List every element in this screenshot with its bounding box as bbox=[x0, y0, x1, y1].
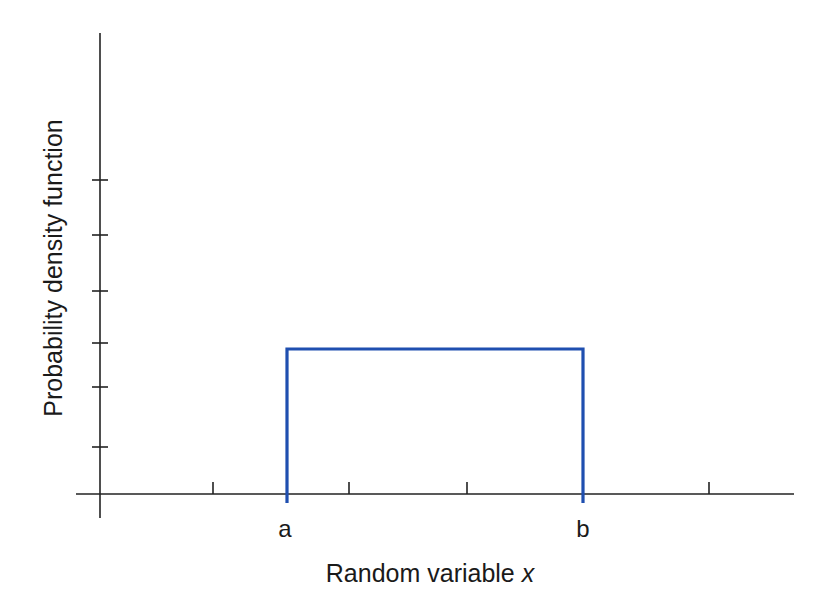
x-tick-label-b: b bbox=[576, 515, 589, 542]
uniform-pdf-line bbox=[287, 349, 583, 503]
y-axis-title: Probability density function bbox=[39, 119, 67, 416]
axes bbox=[76, 33, 794, 518]
x-axis-title: Random variable x bbox=[326, 559, 536, 587]
axis-labels: a b Random variable x Probability densit… bbox=[39, 119, 590, 587]
chart-canvas: a b Random variable x Probability densit… bbox=[0, 0, 830, 612]
tick-marks bbox=[92, 180, 709, 494]
x-axis-variable: x bbox=[521, 559, 536, 587]
pdf-curve bbox=[287, 349, 583, 503]
x-tick-label-a: a bbox=[278, 515, 292, 542]
uniform-pdf-chart: a b Random variable x Probability densit… bbox=[0, 0, 830, 612]
x-axis-title-text: Random variable bbox=[326, 559, 522, 587]
